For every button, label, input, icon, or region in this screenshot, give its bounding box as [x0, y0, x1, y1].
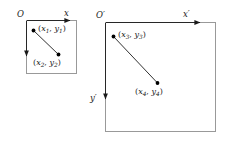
right-point-4-label: (x4, y4): [135, 88, 163, 96]
right-p4-x: x: [138, 87, 143, 96]
left-origin-label: O: [17, 10, 24, 19]
left-p1-close-paren: ): [63, 24, 66, 33]
right-p4-close-paren: ): [160, 87, 163, 96]
left-point-2-label: (x2, y2): [33, 59, 61, 67]
left-p2-x: x: [36, 58, 41, 67]
right-point-3-label: (x3, y3): [118, 31, 146, 39]
left-p2-x-subscript: 2: [41, 62, 45, 68]
left-point-2-marker: [57, 53, 61, 57]
right-origin-letter: O: [96, 10, 103, 20]
left-p1-y-subscript: 1: [59, 28, 63, 34]
right-p4-x-subscript: 4: [143, 91, 147, 97]
right-p4-y-subscript: 4: [156, 91, 160, 97]
left-p1-x: x: [41, 24, 46, 33]
right-y-axis-label: y′: [90, 94, 97, 103]
right-origin-label: O′: [96, 11, 105, 20]
left-point-1-marker: [32, 29, 36, 33]
left-p2-close-paren: ): [58, 58, 61, 67]
left-p1-x-subscript: 1: [46, 28, 50, 34]
right-p3-x: x: [121, 30, 126, 39]
right-origin-prime-mark: ′: [103, 10, 105, 20]
right-y-axis-prime-mark: ′: [95, 93, 97, 103]
right-point-4-marker: [156, 81, 160, 85]
right-segment: [114, 37, 158, 84]
left-segment: [34, 31, 59, 55]
right-p3-x-subscript: 3: [126, 34, 130, 40]
right-p3-close-paren: ): [143, 30, 146, 39]
left-x-axis-label: x: [64, 9, 69, 18]
right-x-axis-prime-mark: ′: [188, 9, 190, 19]
right-x-axis-label: x′: [183, 10, 190, 19]
right-point-3-marker: [112, 35, 116, 39]
right-p3-y-subscript: 3: [139, 34, 143, 40]
left-point-1-label: (x1, y1): [38, 25, 66, 33]
left-p2-y-subscript: 2: [54, 62, 58, 68]
diagram-vector-layer: [0, 0, 226, 143]
diagram-canvas: O x (x1, y1) (x2, y2) O′ x′ y′ (x3, y3) …: [0, 0, 226, 143]
